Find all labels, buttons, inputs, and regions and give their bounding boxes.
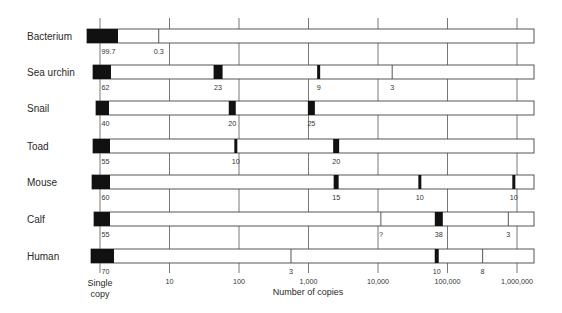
row-calf: Calf55?383 <box>27 212 534 239</box>
single-copy-block <box>87 29 118 43</box>
row-snail: Snail402025 <box>27 101 534 128</box>
row-human: Human703108 <box>27 249 534 276</box>
percent-label: 23 <box>214 83 222 92</box>
percent-label: 20 <box>332 157 340 166</box>
row-toad: Toad551020 <box>27 139 534 166</box>
percent-label: 3 <box>506 230 510 239</box>
row-label: Toad <box>27 141 49 152</box>
row-label: Snail <box>27 103 49 114</box>
percent-label: 99.7 <box>102 47 116 56</box>
percent-label: 20 <box>228 119 236 128</box>
percent-label: 9 <box>317 83 321 92</box>
row-strip <box>96 101 534 115</box>
percent-label: 10 <box>433 267 441 276</box>
repeat-block <box>512 175 515 189</box>
percent-label: 38 <box>435 230 443 239</box>
row-bacterium: Bacterium99.70.3 <box>27 29 534 56</box>
percent-label: 62 <box>102 83 110 92</box>
percent-label: 10 <box>510 193 518 202</box>
repeat-block <box>229 101 236 115</box>
repeat-block <box>308 101 315 115</box>
percent-label: 10 <box>232 157 240 166</box>
single-copy-block <box>91 249 114 263</box>
percent-label: 25 <box>307 119 315 128</box>
repeat-block <box>418 175 421 189</box>
x-tick-label: 100 <box>233 277 245 286</box>
single-copy-block <box>93 65 111 79</box>
percent-label: 3 <box>289 267 293 276</box>
percent-label: 8 <box>481 267 485 276</box>
row-strip <box>91 249 534 263</box>
row-strip <box>93 65 534 79</box>
x-tick-label: 1,000 <box>300 277 318 286</box>
single-copy-block <box>93 139 110 153</box>
repeat-block <box>435 212 443 226</box>
repeat-block <box>333 139 339 153</box>
percent-label: 10 <box>416 193 424 202</box>
single-copy-block <box>96 101 109 115</box>
repeat-block <box>435 249 439 263</box>
repeat-block <box>234 139 237 153</box>
row-strip <box>94 212 534 226</box>
row-label: Mouse <box>27 177 57 188</box>
percent-label: 3 <box>390 83 394 92</box>
row-label: Calf <box>27 214 45 225</box>
percent-label: 40 <box>102 119 110 128</box>
row-sea-urchin: Sea urchin622393 <box>27 65 534 92</box>
percent-label: 70 <box>102 267 110 276</box>
row-strip <box>93 139 534 153</box>
x-axis: Number of copies Singlecopy101001,00010,… <box>87 277 533 299</box>
percent-label: ? <box>379 230 383 239</box>
row-label: Human <box>27 251 59 262</box>
percent-label: 60 <box>102 193 110 202</box>
repetition-frequency-chart: Bacterium99.70.3Sea urchin622393Snail402… <box>0 0 562 313</box>
row-label: Bacterium <box>27 31 72 42</box>
single-copy-block <box>94 212 110 226</box>
x-tick-label-single: Single <box>87 278 112 288</box>
x-tick-label: 100,000 <box>435 277 461 286</box>
organism-rows: Bacterium99.70.3Sea urchin622393Snail402… <box>27 29 534 276</box>
row-strip <box>87 29 534 43</box>
row-strip <box>92 175 534 189</box>
row-mouse: Mouse60151010 <box>27 175 534 202</box>
percent-label: 15 <box>332 193 340 202</box>
x-tick-label: 10,000 <box>367 277 389 286</box>
x-tick-label: 1,000,000 <box>501 277 533 286</box>
repeat-block <box>214 65 223 79</box>
single-copy-block <box>92 175 110 189</box>
percent-label: 55 <box>102 230 110 239</box>
row-label: Sea urchin <box>27 67 75 78</box>
x-tick-label-copy: copy <box>90 289 110 299</box>
repeat-block <box>317 65 320 79</box>
percent-label: 55 <box>102 157 110 166</box>
x-tick-label: 10 <box>166 277 174 286</box>
repeat-block <box>334 175 339 189</box>
x-axis-title: Number of copies <box>273 287 344 297</box>
percent-label: 0.3 <box>154 47 164 56</box>
